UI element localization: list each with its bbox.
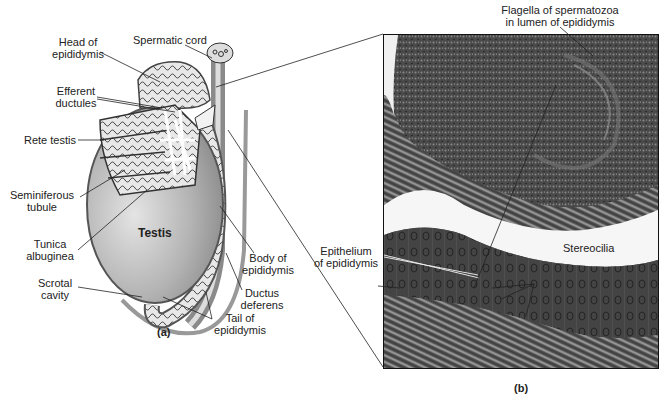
label-scrotal-cavity: Scrotal cavity (34, 277, 76, 301)
spermatic-cord-cross-section (207, 43, 233, 63)
label-epithelium: Epithelium of epididymis (313, 245, 379, 269)
label-rete-testis: Rete testis (24, 134, 76, 146)
label-tunica-albuginea: Tunica albuginea (24, 238, 76, 262)
micrograph-panel (383, 34, 659, 369)
label-head-of-epididymis: Head of epididymis (50, 36, 106, 60)
caption-b: (b) (514, 382, 528, 394)
label-tail-of-epididymis: Tail of epididymis (212, 312, 268, 336)
label-efferent-ductules: Efferent ductules (48, 85, 104, 109)
label-spermatic-cord: Spermatic cord (133, 34, 207, 46)
label-seminiferous-tubule: Seminiferous tubule (8, 189, 76, 213)
label-flagella: Flagella of spermatozoa in lumen of epid… (490, 4, 630, 28)
label-body-of-epididymis: Body of epididymis (240, 252, 296, 276)
caption-a: (a) (157, 326, 170, 338)
label-ductus-deferens: Ductus deferens (240, 287, 284, 311)
label-testis: Testis (138, 227, 172, 239)
epididymis-head (138, 62, 210, 109)
label-stereocilia: Stereocilia (563, 242, 614, 254)
